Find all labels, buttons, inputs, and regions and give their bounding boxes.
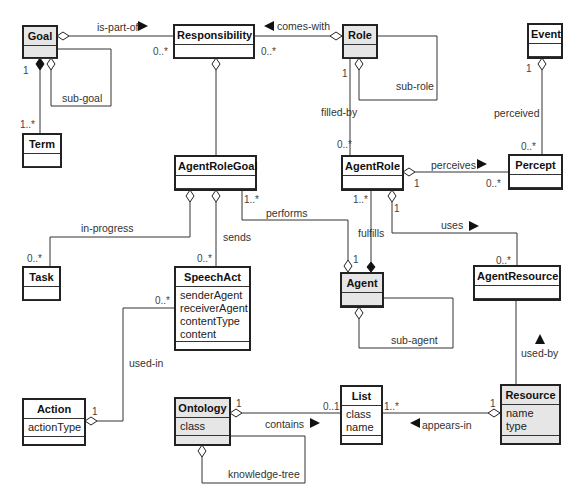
class-resource[interactable]: Resource name type: [500, 384, 561, 445]
class-task[interactable]: Task: [22, 266, 61, 301]
class-operations: [175, 58, 253, 65]
assoc-label-performs: performs: [266, 207, 307, 219]
class-name: Percept: [510, 156, 561, 175]
class-operations: [529, 57, 561, 64]
assoc-label-filled-by: filled-by: [321, 106, 357, 118]
assoc-label-contains: contains: [265, 418, 304, 430]
class-attributes: class name: [342, 406, 381, 436]
class-name: Resource: [502, 386, 559, 405]
class-operations: [24, 167, 60, 174]
class-responsibility[interactable]: Responsibility: [173, 24, 255, 59]
class-name: Action: [24, 400, 84, 419]
class-attributes: senderAgent receiverAgent contentType co…: [176, 287, 249, 342]
class-attributes: [343, 176, 402, 189]
class-attributes: [176, 176, 255, 189]
arrow-left-icon: [264, 21, 274, 31]
aggregation-diamond: [85, 417, 97, 425]
class-role[interactable]: Role: [342, 24, 378, 59]
class-action[interactable]: Action actionType: [22, 398, 86, 446]
class-operations: [342, 436, 381, 443]
class-name: List: [342, 387, 381, 406]
class-attributes: [24, 154, 60, 167]
class-operations: [342, 306, 382, 313]
class-attributes: [342, 293, 382, 306]
assoc-label-appears-in: appears-in: [422, 419, 472, 431]
aggregation-diamond: [344, 260, 352, 272]
multiplicity: 1: [526, 63, 532, 74]
aggregation-diamond: [198, 445, 206, 457]
class-term[interactable]: Term: [22, 133, 62, 168]
class-name: Event: [529, 25, 561, 44]
class-attributes: [24, 46, 56, 59]
class-attributes: [24, 287, 59, 300]
assoc-label-in-progress: in-progress: [81, 222, 134, 234]
multiplicity: 0..*: [521, 141, 536, 152]
multiplicity: 0..*: [496, 255, 511, 266]
class-name: Term: [24, 135, 60, 154]
class-event[interactable]: Event: [527, 23, 563, 59]
class-list[interactable]: List class name: [340, 385, 383, 445]
class-operations: [24, 300, 59, 307]
assoc-label-sub-agent: sub-agent: [391, 334, 438, 346]
class-attributes: [175, 45, 253, 58]
arrow-right-icon: [477, 159, 487, 169]
aggregation-diamond: [57, 32, 69, 40]
class-operations: [344, 58, 376, 65]
class-attributes: [475, 286, 559, 299]
arrow-right-icon: [469, 221, 479, 231]
multiplicity: 1: [92, 406, 98, 417]
multiplicity: 0..*: [27, 253, 42, 264]
class-operations: [510, 188, 561, 195]
aggregation-diamond: [488, 409, 500, 417]
arrow-up-icon: [535, 334, 545, 344]
multiplicity: 0..*: [337, 139, 352, 150]
multiplicity: 0..*: [153, 46, 168, 57]
class-ontology[interactable]: Ontology class: [174, 397, 231, 446]
class-attributes: class: [176, 418, 229, 436]
class-name: Responsibility: [175, 26, 253, 45]
assoc-label-uses: uses: [441, 219, 463, 231]
class-name: SpeechAct: [176, 268, 249, 287]
multiplicity: 0..*: [261, 46, 276, 57]
arrow-right-icon: [310, 418, 320, 428]
assoc-label-sub-goal: sub-goal: [62, 92, 102, 104]
assoc-label-comes-with: comes-with: [277, 20, 330, 32]
class-attributes: [529, 44, 561, 57]
assoc-label-knowledge-tree: knowledge-tree: [228, 468, 300, 480]
class-agent-role-goal[interactable]: AgentRoleGoal: [174, 155, 257, 191]
class-operations: [502, 436, 559, 443]
class-operations: [176, 342, 249, 349]
multiplicity: 1: [236, 398, 242, 409]
class-name: Role: [344, 26, 376, 45]
multiplicity: 1..*: [353, 194, 368, 205]
class-operations: [176, 436, 229, 444]
class-name: AgentResource: [475, 267, 559, 286]
class-operations: [24, 437, 84, 444]
multiplicity: 1: [394, 203, 400, 214]
arrow-right-icon: [138, 21, 148, 31]
class-attributes: [510, 175, 561, 188]
class-name: Goal: [24, 27, 56, 46]
assoc-label-perceives: perceives: [431, 159, 476, 171]
class-operations: [475, 299, 559, 306]
assoc-label-used-by: used-by: [521, 347, 558, 359]
assoc-label-is-part-of: is-part-of: [97, 21, 138, 33]
aggregation-diamond: [330, 32, 342, 40]
aggregation-diamond: [230, 409, 242, 417]
class-operations: [343, 189, 402, 196]
multiplicity: 1..*: [20, 119, 35, 130]
class-agent-role[interactable]: AgentRole: [341, 155, 404, 191]
multiplicity: 1: [353, 254, 359, 265]
multiplicity: 1: [23, 65, 29, 76]
class-name: AgentRoleGoal: [176, 157, 255, 176]
class-agent[interactable]: Agent: [340, 272, 384, 308]
class-percept[interactable]: Percept: [508, 154, 563, 190]
class-name: Ontology: [176, 399, 229, 418]
class-goal[interactable]: Goal: [22, 25, 58, 59]
class-attributes: [344, 45, 376, 58]
aggregation-diamond: [403, 168, 415, 176]
assoc-label-fulfills: fulfills: [358, 227, 384, 239]
composition-diamond: [367, 262, 375, 272]
class-agent-resource[interactable]: AgentResource: [473, 265, 561, 301]
class-speech-act[interactable]: SpeechAct senderAgent receiverAgent cont…: [174, 266, 251, 351]
